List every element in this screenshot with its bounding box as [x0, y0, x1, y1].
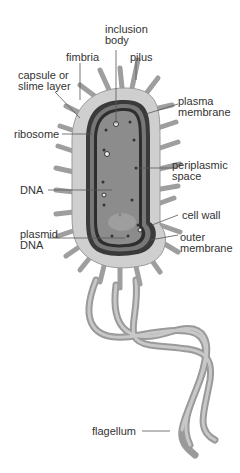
label-capsule: capsule orslime layer [18, 70, 71, 92]
label-flagellum: flagellum [92, 426, 136, 437]
label-plasmid-dna: plasmidDNA [20, 229, 58, 251]
label-text: membrane [178, 106, 231, 118]
label-outer-membrane: outermembrane [180, 232, 233, 254]
label-plasma-membrane: plasmamembrane [178, 96, 231, 118]
label-dna: DNA [20, 185, 43, 196]
label-inclusion-body: inclusionbody [105, 24, 148, 46]
label-cell-wall: cell wall [182, 210, 221, 221]
label-periplasmic-space: periplasmicspace [172, 160, 228, 182]
label-text: space [172, 170, 201, 182]
label-pilus: pilus [130, 52, 153, 63]
label-fimbria: fimbria [66, 52, 99, 63]
label-text: slime layer [18, 80, 71, 92]
label-text: body [105, 34, 129, 46]
label-text: DNA [20, 239, 43, 251]
label-ribosome: ribosome [14, 129, 59, 140]
label-text: membrane [180, 242, 233, 254]
